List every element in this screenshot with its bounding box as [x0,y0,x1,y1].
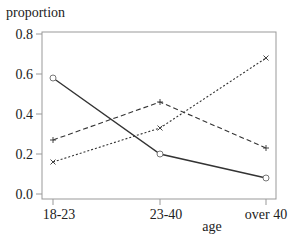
y-tick-label: 0.8 [16,27,34,42]
cross-marker [158,126,163,131]
y-axis-label: proportion [6,5,65,20]
x-axis-label: age [202,219,221,234]
circle-marker [157,151,163,157]
x-tick-label: 23-40 [150,207,183,222]
y-axis: 0.00.20.40.60.8 [16,27,43,202]
y-tick-label: 0.4 [16,107,34,122]
y-tick-label: 0.6 [16,67,34,82]
x-tick-label: 18-23 [43,207,76,222]
circle-marker [50,75,56,81]
plus-marker [50,137,56,143]
x-tick-label: over 40 [245,207,287,222]
y-tick-label: 0.0 [16,187,34,202]
plot-frame [42,32,276,199]
series-line-dotted [53,58,266,162]
plus-marker [263,145,269,151]
x-axis: 18-2323-40over 40 [43,199,288,222]
circle-marker [263,175,269,181]
y-tick-label: 0.2 [16,147,34,162]
series-line-dashed [53,102,266,148]
line-chart: proportion 0.00.20.40.60.8 18-2323-40ove… [0,0,299,246]
cross-marker [264,56,269,61]
plus-marker [157,99,163,105]
series-group [50,56,269,182]
